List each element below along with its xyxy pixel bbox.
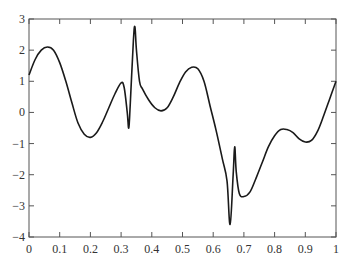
y-tick-label: 2: [19, 43, 25, 57]
y-tick-label: 3: [19, 12, 25, 26]
x-tick-label: 0.1: [52, 242, 67, 256]
y-tick-label: 1: [19, 74, 25, 88]
x-tick-label: 0.2: [83, 242, 98, 256]
x-tick-label: 0.5: [175, 242, 190, 256]
plot-frame: [29, 19, 336, 237]
x-tick-label: 0.8: [267, 242, 282, 256]
x-tick-label: 1: [333, 242, 339, 256]
y-tick-label: −1: [12, 137, 25, 151]
y-tick-label: 0: [19, 105, 25, 119]
x-axis-tick-labels: 00.10.20.30.40.50.60.70.80.91: [26, 242, 339, 256]
x-tick-label: 0: [26, 242, 32, 256]
line-chart: 00.10.20.30.40.50.60.70.80.91 3210−1−2−3…: [0, 0, 349, 265]
y-tick-label: −2: [12, 168, 25, 182]
data-line: [29, 26, 336, 224]
axis-ticks: [29, 19, 336, 237]
x-tick-label: 0.6: [206, 242, 221, 256]
x-tick-label: 0.3: [114, 242, 129, 256]
y-axis-tick-labels: 3210−1−2−3−4: [12, 12, 25, 244]
y-tick-label: −3: [12, 199, 25, 213]
y-tick-label: −4: [12, 230, 25, 244]
x-tick-label: 0.7: [236, 242, 251, 256]
x-tick-label: 0.9: [298, 242, 313, 256]
x-tick-label: 0.4: [144, 242, 159, 256]
